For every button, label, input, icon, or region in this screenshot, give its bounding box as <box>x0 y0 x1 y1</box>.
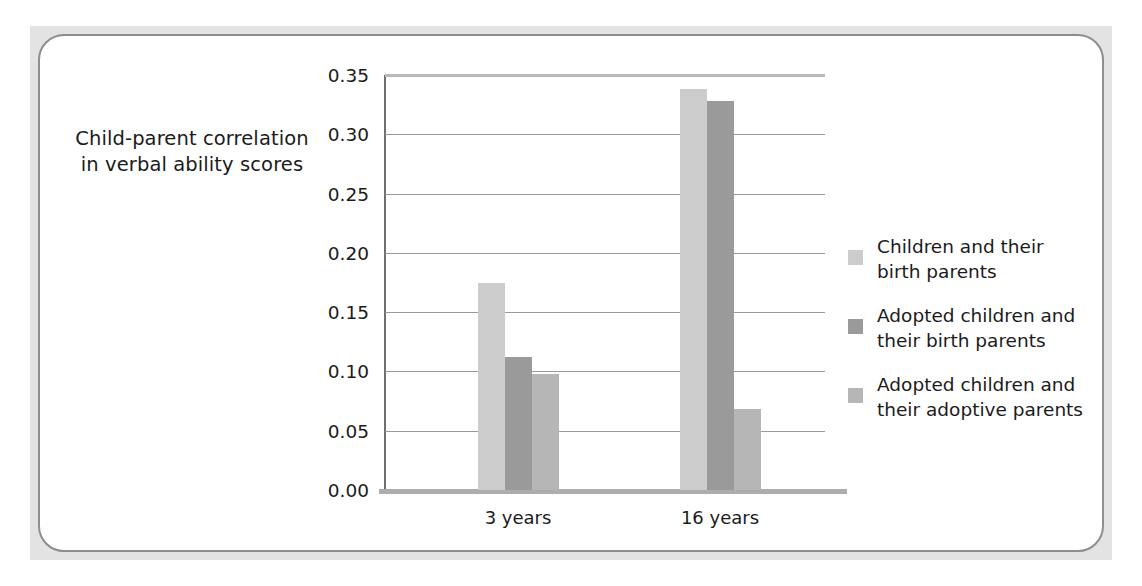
bar <box>680 89 707 490</box>
bar <box>707 101 734 490</box>
y-tick-label: 0.35 <box>328 65 369 86</box>
y-tick-label: 0.05 <box>328 420 369 441</box>
legend-label-line-2: birth parents <box>877 259 1044 284</box>
y-tick-label: 0.20 <box>328 242 369 263</box>
x-tick-label: 16 years <box>681 507 759 528</box>
x-tick-label: 3 years <box>485 507 552 528</box>
plot-area: 0.350.300.250.200.150.100.050.00 3 years… <box>385 75 825 490</box>
figure-frame: Child-parent correlation in verbal abili… <box>30 26 1112 560</box>
gridline <box>385 312 825 313</box>
gridline <box>385 371 825 372</box>
legend: Children and theirbirth parentsAdopted c… <box>848 234 1098 441</box>
legend-label-line-2: their adoptive parents <box>877 397 1083 422</box>
legend-label: Adopted children andtheir adoptive paren… <box>877 372 1083 422</box>
y-tick-label: 0.25 <box>328 183 369 204</box>
y-tick-label: 0.30 <box>328 124 369 145</box>
y-axis-title: Child-parent correlation in verbal abili… <box>66 126 318 178</box>
y-axis-title-line-2: in verbal ability scores <box>66 152 318 178</box>
legend-item: Adopted children andtheir birth parents <box>848 303 1098 353</box>
y-tick-label: 0.00 <box>328 480 369 501</box>
legend-item: Adopted children andtheir adoptive paren… <box>848 372 1098 422</box>
y-axis-title-line-1: Child-parent correlation <box>66 126 318 152</box>
bar-chart: Child-parent correlation in verbal abili… <box>40 36 1102 550</box>
legend-label: Children and theirbirth parents <box>877 234 1044 284</box>
bar <box>734 409 761 490</box>
figure-border: Child-parent correlation in verbal abili… <box>38 34 1104 552</box>
gridline <box>385 134 825 135</box>
legend-label-line-2: their birth parents <box>877 328 1075 353</box>
legend-label: Adopted children andtheir birth parents <box>877 303 1075 353</box>
y-axis-line <box>384 75 386 490</box>
legend-label-line-1: Children and their <box>877 234 1044 259</box>
legend-swatch <box>848 388 863 403</box>
y-tick-label: 0.15 <box>328 302 369 323</box>
legend-item: Children and theirbirth parents <box>848 234 1098 284</box>
legend-swatch <box>848 319 863 334</box>
legend-swatch <box>848 250 863 265</box>
legend-label-line-1: Adopted children and <box>877 303 1075 328</box>
y-tick-label: 0.10 <box>328 361 369 382</box>
gridline <box>385 253 825 254</box>
bar <box>478 283 505 491</box>
legend-label-line-1: Adopted children and <box>877 372 1083 397</box>
bar <box>505 357 532 490</box>
bar <box>532 374 559 490</box>
gridline <box>385 194 825 195</box>
x-axis-line <box>379 489 847 494</box>
gridline <box>385 74 825 77</box>
